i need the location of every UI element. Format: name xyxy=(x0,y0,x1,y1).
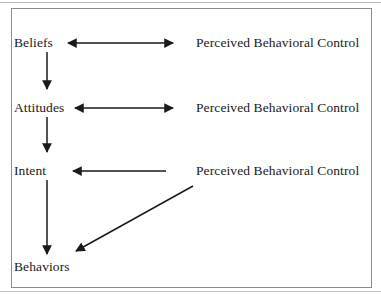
node-label-perceived-behavioral-control-2: Perceived Behavioral Control xyxy=(196,100,359,115)
page-bottom-rule xyxy=(0,291,381,292)
figure-frame xyxy=(11,8,372,288)
node-label-perceived-behavioral-control-3: Perceived Behavioral Control xyxy=(196,163,359,178)
diagram-canvas: Beliefs Attitudes Intent Behaviors Perce… xyxy=(0,0,381,295)
node-label-attitudes: Attitudes xyxy=(14,100,64,115)
node-label-beliefs: Beliefs xyxy=(14,35,53,50)
node-label-behaviors: Behaviors xyxy=(14,259,70,274)
node-label-intent: Intent xyxy=(14,163,46,178)
node-label-perceived-behavioral-control-1: Perceived Behavioral Control xyxy=(196,35,359,50)
page-top-rule xyxy=(0,2,381,3)
